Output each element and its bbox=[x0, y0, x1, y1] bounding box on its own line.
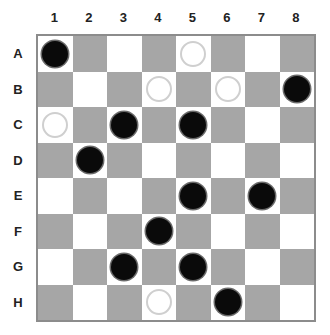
square-E3[interactable] bbox=[107, 178, 142, 214]
row-labels: ABCDEFGH bbox=[0, 36, 36, 320]
square-F8[interactable] bbox=[280, 214, 315, 250]
square-A1[interactable] bbox=[38, 36, 73, 72]
row-label-E: E bbox=[0, 178, 36, 214]
row-label-C: C bbox=[0, 107, 36, 143]
square-H8[interactable] bbox=[280, 285, 315, 321]
square-G6[interactable] bbox=[211, 249, 246, 285]
square-C4[interactable] bbox=[142, 107, 177, 143]
row-label-A: A bbox=[0, 36, 36, 72]
black-piece-icon[interactable] bbox=[111, 112, 137, 138]
square-A5[interactable] bbox=[176, 36, 211, 72]
black-piece-icon[interactable] bbox=[180, 112, 206, 138]
black-piece-icon[interactable] bbox=[215, 289, 241, 315]
column-label-7: 7 bbox=[244, 10, 279, 30]
column-label-2: 2 bbox=[72, 10, 107, 30]
square-F6[interactable] bbox=[211, 214, 246, 250]
square-B8[interactable] bbox=[280, 72, 315, 108]
square-B5[interactable] bbox=[176, 72, 211, 108]
square-D1[interactable] bbox=[38, 143, 73, 179]
row-label-H: H bbox=[0, 285, 36, 321]
square-H2[interactable] bbox=[73, 285, 108, 321]
square-H3[interactable] bbox=[107, 285, 142, 321]
square-G3[interactable] bbox=[107, 249, 142, 285]
square-B7[interactable] bbox=[245, 72, 280, 108]
square-H1[interactable] bbox=[38, 285, 73, 321]
square-H4[interactable] bbox=[142, 285, 177, 321]
row-label-F: F bbox=[0, 214, 36, 250]
square-E6[interactable] bbox=[211, 178, 246, 214]
square-E2[interactable] bbox=[73, 178, 108, 214]
square-E7[interactable] bbox=[245, 178, 280, 214]
square-B4[interactable] bbox=[142, 72, 177, 108]
square-A6[interactable] bbox=[211, 36, 246, 72]
square-G7[interactable] bbox=[245, 249, 280, 285]
square-H5[interactable] bbox=[176, 285, 211, 321]
square-G2[interactable] bbox=[73, 249, 108, 285]
square-D3[interactable] bbox=[107, 143, 142, 179]
square-C8[interactable] bbox=[280, 107, 315, 143]
black-piece-icon[interactable] bbox=[42, 41, 68, 67]
square-G8[interactable] bbox=[280, 249, 315, 285]
square-C3[interactable] bbox=[107, 107, 142, 143]
square-A7[interactable] bbox=[245, 36, 280, 72]
square-E4[interactable] bbox=[142, 178, 177, 214]
black-piece-icon[interactable] bbox=[77, 147, 103, 173]
square-D2[interactable] bbox=[73, 143, 108, 179]
square-C6[interactable] bbox=[211, 107, 246, 143]
column-labels: 12345678 bbox=[37, 10, 313, 30]
black-piece-icon[interactable] bbox=[284, 76, 310, 102]
square-G1[interactable] bbox=[38, 249, 73, 285]
column-label-3: 3 bbox=[106, 10, 141, 30]
black-piece-icon[interactable] bbox=[180, 254, 206, 280]
white-piece-icon[interactable] bbox=[180, 41, 206, 67]
square-B1[interactable] bbox=[38, 72, 73, 108]
square-A2[interactable] bbox=[73, 36, 108, 72]
square-C7[interactable] bbox=[245, 107, 280, 143]
square-F2[interactable] bbox=[73, 214, 108, 250]
square-H6[interactable] bbox=[211, 285, 246, 321]
square-E8[interactable] bbox=[280, 178, 315, 214]
white-piece-icon[interactable] bbox=[42, 112, 68, 138]
square-E5[interactable] bbox=[176, 178, 211, 214]
square-C2[interactable] bbox=[73, 107, 108, 143]
game-board bbox=[36, 34, 316, 322]
black-piece-icon[interactable] bbox=[249, 183, 275, 209]
square-F1[interactable] bbox=[38, 214, 73, 250]
column-label-8: 8 bbox=[279, 10, 314, 30]
column-label-4: 4 bbox=[141, 10, 176, 30]
square-F5[interactable] bbox=[176, 214, 211, 250]
square-F4[interactable] bbox=[142, 214, 177, 250]
row-label-B: B bbox=[0, 72, 36, 108]
square-C5[interactable] bbox=[176, 107, 211, 143]
column-label-1: 1 bbox=[37, 10, 72, 30]
column-label-5: 5 bbox=[175, 10, 210, 30]
square-D4[interactable] bbox=[142, 143, 177, 179]
white-piece-icon[interactable] bbox=[146, 76, 172, 102]
black-piece-icon[interactable] bbox=[111, 254, 137, 280]
square-H7[interactable] bbox=[245, 285, 280, 321]
square-B6[interactable] bbox=[211, 72, 246, 108]
square-E1[interactable] bbox=[38, 178, 73, 214]
square-A8[interactable] bbox=[280, 36, 315, 72]
square-D6[interactable] bbox=[211, 143, 246, 179]
column-label-6: 6 bbox=[210, 10, 245, 30]
square-G4[interactable] bbox=[142, 249, 177, 285]
square-F3[interactable] bbox=[107, 214, 142, 250]
square-D7[interactable] bbox=[245, 143, 280, 179]
black-piece-icon[interactable] bbox=[180, 183, 206, 209]
square-F7[interactable] bbox=[245, 214, 280, 250]
square-G5[interactable] bbox=[176, 249, 211, 285]
row-label-G: G bbox=[0, 249, 36, 285]
white-piece-icon[interactable] bbox=[215, 76, 241, 102]
black-piece-icon[interactable] bbox=[146, 218, 172, 244]
square-D5[interactable] bbox=[176, 143, 211, 179]
square-B2[interactable] bbox=[73, 72, 108, 108]
square-A4[interactable] bbox=[142, 36, 177, 72]
row-label-D: D bbox=[0, 143, 36, 179]
white-piece-icon[interactable] bbox=[146, 289, 172, 315]
square-A3[interactable] bbox=[107, 36, 142, 72]
square-D8[interactable] bbox=[280, 143, 315, 179]
square-B3[interactable] bbox=[107, 72, 142, 108]
square-C1[interactable] bbox=[38, 107, 73, 143]
